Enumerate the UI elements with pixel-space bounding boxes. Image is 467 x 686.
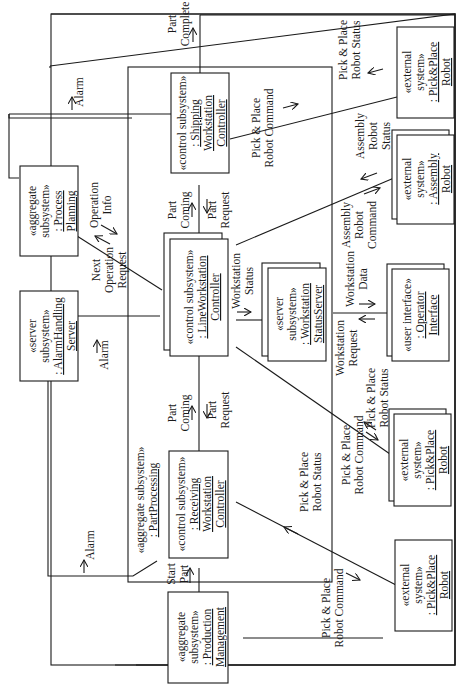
svg-text:Request: Request bbox=[219, 391, 232, 429]
svg-text:Robot: Robot bbox=[440, 57, 452, 86]
msg-pick-place-robot-command-ship: Pick & Place Robot Command bbox=[250, 88, 275, 167]
label-process-planning: «aggregate subsystem» : Process Planning bbox=[26, 184, 78, 238]
svg-text:: Process: : Process bbox=[52, 190, 64, 232]
msg-part-coming-1: Part Coming bbox=[166, 394, 192, 431]
msg-next-operation-request: Next Operation Request bbox=[90, 247, 129, 293]
msg-assembly-robot-status: Assembly Robot Status bbox=[354, 113, 392, 159]
svg-text:Pick & Place: Pick & Place bbox=[320, 578, 332, 638]
msg-pick-place-robot-status-line: Pick & Place Robot Status bbox=[365, 368, 390, 428]
svg-text:Status: Status bbox=[243, 266, 255, 295]
arrow-up-left-icon bbox=[284, 527, 298, 534]
msg-alarm-mid: Alarm bbox=[98, 340, 110, 369]
svg-text:StatusServer: StatusServer bbox=[312, 285, 324, 343]
svg-text:Robot Status: Robot Status bbox=[350, 20, 362, 80]
svg-text:Workstation: Workstation bbox=[201, 476, 213, 532]
svg-text:system»: system» bbox=[412, 566, 425, 604]
svg-text:subsystem»: subsystem» bbox=[188, 610, 201, 664]
svg-text:Robot: Robot bbox=[437, 445, 449, 474]
svg-text:Controller: Controller bbox=[209, 273, 221, 320]
svg-text:Assembly: Assembly bbox=[354, 113, 367, 159]
svg-text:: Operator: : Operator bbox=[414, 291, 427, 338]
svg-text:Command: Command bbox=[366, 201, 378, 249]
svg-text:Operation: Operation bbox=[103, 247, 116, 293]
svg-text:: Pick&Place: : Pick&Place bbox=[424, 430, 436, 490]
msg-part-coming-2: Part Coming bbox=[166, 191, 192, 228]
msg-assembly-robot-command: Assembly Robot Command bbox=[340, 201, 378, 249]
svg-text:Assembly: Assembly bbox=[340, 202, 353, 248]
svg-text:Coming: Coming bbox=[179, 191, 192, 228]
svg-text:Robot: Robot bbox=[438, 570, 450, 599]
svg-text:Server: Server bbox=[65, 321, 77, 351]
arrow-right-icon bbox=[364, 188, 380, 194]
svg-text:Next: Next bbox=[90, 258, 102, 281]
arrow-down-right-icon bbox=[346, 573, 360, 580]
svg-text:: Receiving: : Receiving bbox=[188, 477, 201, 530]
svg-text:Robot Status: Robot Status bbox=[311, 452, 323, 512]
svg-text:«control subsystem»: «control subsystem» bbox=[176, 75, 189, 170]
svg-text:Operation: Operation bbox=[88, 182, 101, 228]
svg-text:Workstation: Workstation bbox=[344, 251, 356, 307]
svg-text:«user interface»: «user interface» bbox=[401, 278, 413, 352]
svg-text:Workstation: Workstation bbox=[202, 95, 214, 151]
svg-text:Pick & Place: Pick & Place bbox=[250, 98, 262, 158]
svg-text:Robot Command: Robot Command bbox=[333, 568, 345, 647]
svg-text:Alarm: Alarm bbox=[84, 530, 96, 559]
alarm-wire-top bbox=[9, 114, 132, 118]
recv-robot-wire bbox=[236, 502, 396, 585]
svg-text:Part: Part bbox=[206, 200, 218, 219]
svg-text:: Workstation: : Workstation bbox=[299, 283, 311, 345]
msg-workstation-data: Workstation Data bbox=[344, 251, 369, 307]
svg-text:«server: «server bbox=[273, 297, 285, 331]
arrow-right-icon bbox=[283, 104, 298, 108]
svg-text:Info: Info bbox=[101, 195, 113, 214]
svg-text:«aggregate subsystem»: «aggregate subsystem» bbox=[134, 446, 147, 553]
msg-pick-place-robot-status-recv: Pick & Place Robot Status bbox=[298, 452, 323, 512]
svg-text:Start: Start bbox=[165, 562, 177, 585]
msg-part-request-1: Part Request bbox=[206, 391, 232, 429]
arrow-left-icon bbox=[361, 173, 377, 179]
svg-text:Robot: Robot bbox=[353, 210, 365, 239]
svg-text:subsystem»: subsystem» bbox=[286, 287, 299, 341]
svg-text:Robot Command: Robot Command bbox=[353, 415, 365, 494]
svg-text:Pick & Place: Pick & Place bbox=[298, 452, 310, 512]
svg-text:Workstation: Workstation bbox=[334, 320, 346, 376]
svg-text:Request: Request bbox=[347, 329, 360, 367]
msg-part-complete: Part Complete bbox=[166, 2, 192, 47]
msg-part-request-2: Part Request bbox=[206, 191, 232, 229]
svg-text:Complete: Complete bbox=[179, 2, 192, 47]
svg-text:Coming: Coming bbox=[179, 394, 192, 431]
svg-text:«control subsystem»: «control subsystem» bbox=[175, 456, 188, 551]
svg-text:Alarm: Alarm bbox=[73, 77, 85, 106]
svg-text:: Pick&Place: : Pick&Place bbox=[427, 42, 439, 102]
svg-text:Part: Part bbox=[166, 403, 178, 422]
svg-text:: Assembly: : Assembly bbox=[427, 153, 440, 205]
svg-text:«external: «external bbox=[398, 439, 410, 482]
svg-text:«external: «external bbox=[401, 158, 413, 201]
svg-text:Controller: Controller bbox=[214, 480, 226, 527]
svg-text:«aggregate: «aggregate bbox=[175, 612, 188, 662]
svg-text:«external: «external bbox=[399, 564, 411, 607]
svg-text:Pick & Place: Pick & Place bbox=[340, 425, 352, 485]
msg-pick-place-robot-command-recv: Pick & Place Robot Command bbox=[320, 568, 345, 647]
label-production-management: «aggregate subsystem» : Production Manag… bbox=[175, 606, 227, 667]
msg-start-part: Start Part bbox=[165, 562, 190, 585]
svg-text:Management: Management bbox=[214, 606, 227, 667]
arrow-left-icon bbox=[368, 69, 383, 73]
arrow-down-right-icon bbox=[101, 225, 117, 234]
alarm-wire-left bbox=[9, 114, 19, 178]
svg-text:: PartProcessing: : PartProcessing bbox=[147, 463, 160, 538]
svg-text:Controller: Controller bbox=[215, 99, 227, 146]
svg-text:«external: «external bbox=[401, 51, 413, 94]
label-part-processing-frame: «aggregate subsystem» : PartProcessing bbox=[134, 446, 160, 553]
svg-text:Planning: Planning bbox=[65, 190, 78, 231]
svg-text:: Pick&Place: : Pick&Place bbox=[425, 555, 437, 615]
svg-text:Part: Part bbox=[178, 564, 190, 583]
svg-text:Request: Request bbox=[219, 191, 232, 229]
svg-text:Data: Data bbox=[357, 268, 369, 290]
svg-text:Workstation: Workstation bbox=[230, 253, 242, 309]
svg-text:: LineWorkstation: : LineWorkstation bbox=[196, 255, 208, 338]
svg-text:: Production: : Production bbox=[201, 608, 213, 665]
svg-text:Pick & Place: Pick & Place bbox=[337, 20, 349, 80]
svg-text:«aggregate: «aggregate bbox=[26, 186, 39, 236]
msg-alarm-bottom: Alarm bbox=[84, 530, 96, 559]
